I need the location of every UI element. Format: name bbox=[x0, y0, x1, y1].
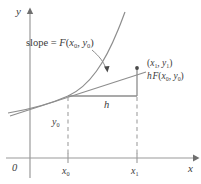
x-axis bbox=[6, 155, 200, 162]
slope-prefix: slope = bbox=[26, 37, 59, 48]
slope-annotation: slope = F(x0, y0) bbox=[26, 38, 94, 49]
x-axis-label: x bbox=[188, 163, 193, 174]
slope-close-paren: ) bbox=[90, 37, 94, 48]
point1-close-paren: ) bbox=[169, 58, 172, 68]
diagram-canvas bbox=[0, 0, 201, 184]
y-axis bbox=[27, 8, 33, 179]
slope-leader-arrowhead bbox=[104, 66, 110, 73]
step-h-text: h bbox=[104, 99, 109, 110]
point-x1y1-marker bbox=[135, 66, 139, 70]
increment-annotation: h F(x0, y0) bbox=[147, 72, 184, 83]
euler-method-diagram: y x 0 slope = F(x0, y0) (x1, y1) h F(x0,… bbox=[0, 0, 201, 184]
y-axis-label: y bbox=[16, 6, 21, 17]
y0-sub: 0 bbox=[56, 121, 59, 128]
y0-label: y0 bbox=[52, 117, 60, 128]
x1-tick-label: x1 bbox=[131, 166, 139, 177]
step-h-label: h bbox=[104, 100, 109, 111]
x1-sub: 1 bbox=[135, 170, 138, 177]
x0-tick-label: x0 bbox=[62, 166, 70, 177]
x0-sub: 0 bbox=[66, 170, 69, 177]
point-x1y1-label: (x1, y1) bbox=[147, 59, 172, 70]
origin-label: 0 bbox=[12, 163, 17, 174]
increment-close-paren: ) bbox=[181, 71, 184, 81]
increment-h: h bbox=[147, 71, 152, 81]
